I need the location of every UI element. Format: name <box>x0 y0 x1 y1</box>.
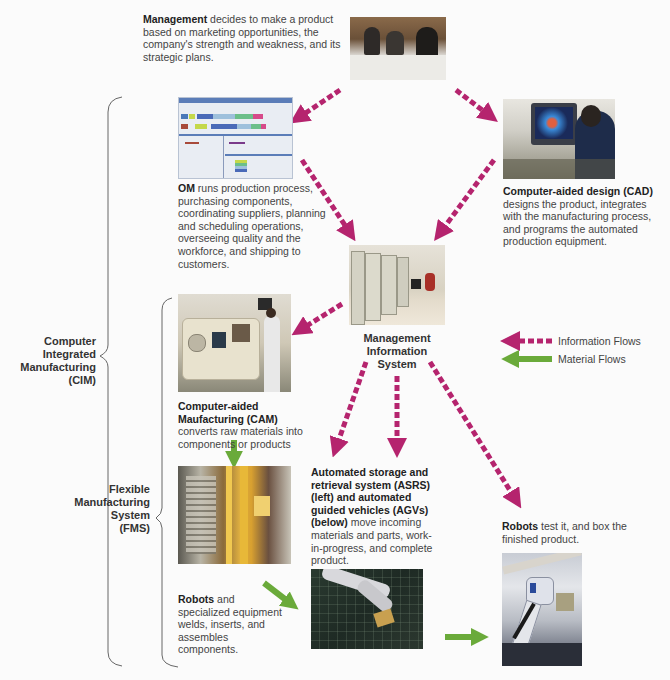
cam-text: converts raw materials into components o… <box>178 425 303 450</box>
info-arrow-mis-to-asrs <box>336 362 366 448</box>
om-description: OM runs production process, purchasing c… <box>178 182 328 270</box>
info-arrow-mgmt-to-om <box>298 90 340 118</box>
cim-label-line2: Integrated <box>10 348 96 361</box>
robot-arm-photo <box>311 569 423 649</box>
info-arrow-cad-to-mis <box>440 160 494 233</box>
cnc-machine-photo <box>178 294 291 392</box>
robots-assemble-title: Robots <box>178 593 214 605</box>
info-arrow-mis-to-robots <box>430 362 516 500</box>
meeting-photo <box>350 17 446 80</box>
legend-material-flows: Material Flows <box>558 353 626 366</box>
robots-test-description: Robots test it, and box the finished pro… <box>502 520 642 545</box>
mis-label-line2: Information <box>340 345 454 358</box>
cad-description: Computer-aided design (CAD) designs the … <box>503 185 668 248</box>
robots-assemble-description: Robots and specialized equipment welds, … <box>178 593 288 656</box>
mis-label: Management Information System <box>340 332 454 371</box>
cad-workstation-photo <box>503 99 615 179</box>
legend-information-flows: Information Flows <box>558 335 641 348</box>
mis-label-line1: Management <box>340 332 454 345</box>
fms-label: Flexible Manufacturing System (FMS) <box>60 483 150 535</box>
cam-description: Computer-aided Maufacturing (CAM) conver… <box>178 400 308 450</box>
om-title: OM <box>178 182 195 194</box>
cim-label-line4: (CIM) <box>10 374 96 387</box>
cad-text: designs the product, integrates with the… <box>503 198 651 248</box>
asrs-warehouse-photo <box>178 466 291 564</box>
cim-label: Computer Integrated Manufacturing (CIM) <box>10 335 96 387</box>
scheduling-software-screenshot <box>178 97 293 179</box>
cam-title: Computer-aided Maufacturing (CAM) <box>178 400 278 425</box>
robots-test-title: Robots <box>502 520 538 532</box>
cad-title: Computer-aided design (CAD) <box>503 185 653 197</box>
mis-label-line3: System <box>340 358 454 371</box>
fms-label-line3: System <box>60 509 150 522</box>
robot-packaging-photo <box>502 553 582 666</box>
management-description: Management decides to make a product bas… <box>143 13 343 63</box>
fms-label-line2: Manufacturing <box>60 496 150 509</box>
asrs-description: Automated storage and retrieval system (… <box>311 466 441 567</box>
info-arrow-mis-to-cam <box>300 304 342 330</box>
fms-label-line4: (FMS) <box>60 522 150 535</box>
fms-bracket <box>156 298 178 667</box>
cim-label-line1: Computer <box>10 335 96 348</box>
server-room-photo <box>349 245 445 325</box>
cim-label-line3: Manufacturing <box>10 361 96 374</box>
info-arrow-mgmt-to-cad <box>456 90 490 116</box>
management-title: Management <box>143 13 207 25</box>
fms-label-line1: Flexible <box>60 483 150 496</box>
om-text: runs production process, purchasing comp… <box>178 182 326 270</box>
cim-bracket <box>100 97 122 666</box>
